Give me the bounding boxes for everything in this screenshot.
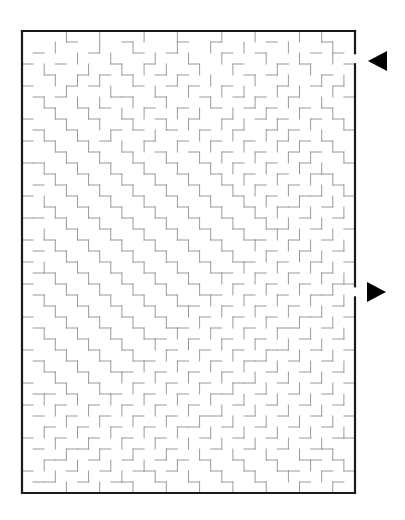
maze-canvas bbox=[0, 0, 405, 520]
page-root bbox=[0, 0, 405, 520]
maze-figure bbox=[0, 0, 405, 520]
